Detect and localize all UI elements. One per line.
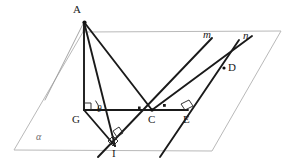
point-label-D: D (228, 62, 236, 73)
line-label-n: n (243, 30, 249, 41)
right-angle-mark-g (84, 103, 91, 110)
point-label-E: E (183, 114, 190, 125)
geometry-canvas (0, 0, 291, 167)
point-label-G: G (72, 114, 80, 125)
line-n-lower (160, 40, 239, 157)
angle-label-theta: θ (97, 105, 102, 115)
vertex-d-marker (222, 66, 225, 69)
line-label-m: m (203, 29, 211, 40)
construction-line-a-left (45, 22, 84, 100)
point-label-A: A (73, 4, 81, 15)
line-m (98, 38, 212, 157)
plane-alpha-outline (14, 31, 281, 151)
plane-label-alpha: α (36, 132, 41, 142)
point-label-C: C (148, 114, 155, 125)
right-angle-mark-e (181, 100, 193, 110)
right-angle-dot-c-left (138, 107, 141, 110)
right-angle-dot-c-right (163, 104, 166, 107)
point-label-I: I (112, 148, 116, 159)
geometry-figure: A G C E I D m n θ α (0, 0, 291, 167)
vertex-a-marker (82, 20, 86, 24)
vertex-c-marker (150, 108, 153, 111)
